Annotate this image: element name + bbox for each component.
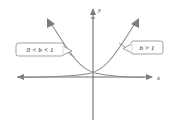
exponential-graph-figure: 0 < b < 1 b > 1 y x [0,0,170,127]
callout-left-0-lt-b-lt-1[interactable]: 0 < b < 1 [16,43,72,56]
x-axis-label: x [156,74,161,82]
y-axis-label: y [97,6,102,14]
y-axis [90,8,96,120]
left-callout-label: 0 < b < 1 [27,46,54,54]
callout-right-b-gt-1[interactable]: b > 1 [123,41,163,54]
right-callout-label: b > 1 [139,44,154,52]
